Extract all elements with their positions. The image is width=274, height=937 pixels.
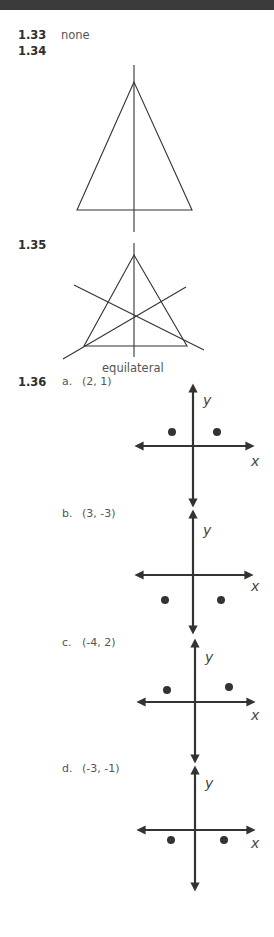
point-marker [213,428,221,436]
point-marker [220,836,228,844]
point-marker [167,836,175,844]
y-axis-label: y [204,775,214,791]
coordinate-axes-c [141,643,251,759]
x-axis-label: x [250,578,260,594]
point-marker [168,428,176,436]
coordinate-axes-d [141,770,251,887]
point-marker [225,683,233,691]
triangle-shape [84,255,187,346]
coordinate-axes-b [139,514,249,630]
y-axis-label: y [204,649,214,665]
point-marker [217,596,225,604]
figures-layer: y x y x y x y x [0,0,274,937]
symmetry-line [63,287,186,359]
point-marker [161,596,169,604]
equilateral-triangle-figure [63,243,204,359]
x-axis-label: x [250,835,260,851]
x-axis-label: x [250,453,260,469]
symmetry-line [74,285,204,350]
coordinate-axes-a [139,388,250,503]
isosceles-triangle-figure [77,65,192,232]
point-marker [163,686,171,694]
x-axis-label: x [250,707,260,723]
y-axis-label: y [202,522,212,538]
y-axis-label: y [202,392,212,408]
